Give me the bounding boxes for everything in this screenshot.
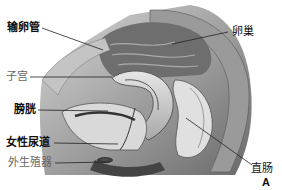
- label-bladder: 膀胱: [14, 104, 36, 116]
- label-uterus: 子宫: [6, 71, 28, 83]
- anatomy-diagram: 输卵管 卵巢 子宫 膀胱 女性尿道 外生殖器 直肠 A: [0, 0, 282, 190]
- label-external-genitalia: 外生殖器: [8, 157, 52, 169]
- label-rectum: 直肠: [251, 163, 273, 175]
- label-fallopian-tube: 输卵管: [7, 22, 40, 34]
- figure-letter: A: [262, 176, 270, 188]
- label-ovary: 卵巢: [232, 26, 254, 38]
- label-female-urethra: 女性尿道: [6, 137, 50, 149]
